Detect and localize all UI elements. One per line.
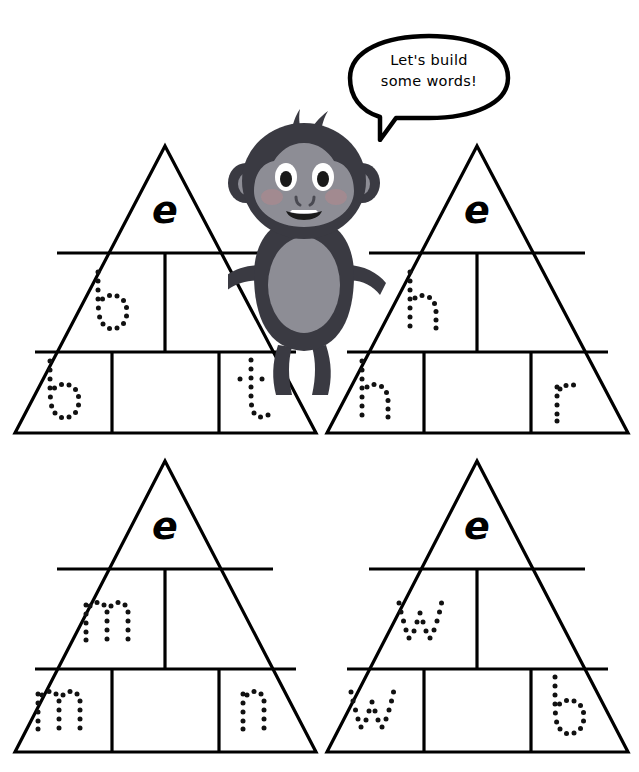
leg-right bbox=[312, 345, 331, 395]
pyramid-4-graphic bbox=[320, 455, 636, 757]
pyramid-4[interactable]: e bbox=[320, 455, 636, 757]
pupil-left bbox=[280, 171, 292, 187]
worksheet-page: e bbox=[0, 0, 639, 772]
monkey-belly bbox=[268, 237, 340, 333]
cheek-right bbox=[325, 189, 347, 205]
speech-bubble: Let's build some words! bbox=[344, 32, 514, 142]
cheek-left bbox=[261, 189, 283, 205]
monkey-graphic bbox=[228, 105, 388, 405]
monkey-character bbox=[228, 105, 388, 405]
leg-left bbox=[273, 345, 292, 395]
pyramid-3-graphic bbox=[8, 455, 324, 757]
pupil-right bbox=[317, 171, 329, 187]
page-ghost-header bbox=[70, 0, 370, 7]
speech-bubble-text: Let's build some words! bbox=[344, 50, 514, 92]
pyramid-3[interactable]: e bbox=[8, 455, 324, 757]
